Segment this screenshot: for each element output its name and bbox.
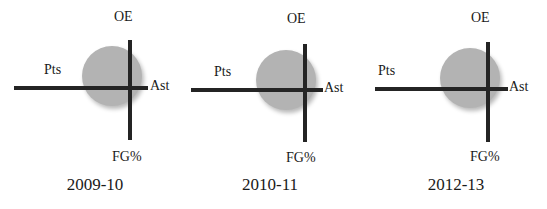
axis-arm-oe	[486, 42, 490, 89]
reference-circle	[440, 48, 500, 108]
reference-circle	[256, 50, 316, 110]
axis-label-fg: FG%	[112, 150, 142, 164]
panel-caption: 2009-10	[4, 176, 186, 193]
axis-label-oe: OE	[114, 10, 133, 24]
radar-glyph: OE Ast FG% Pts	[0, 0, 182, 160]
axis-arm-fg	[303, 90, 307, 142]
axis-label-ast: Ast	[324, 81, 343, 95]
panel-caption: 2010-11	[179, 176, 361, 193]
axis-label-fg: FG%	[470, 150, 500, 164]
axis-label-pts: Pts	[214, 65, 231, 79]
axis-arm-ast	[488, 87, 508, 91]
axis-label-pts: Pts	[378, 64, 395, 78]
reference-circle	[82, 46, 142, 106]
radar-panel-2012-13: OE Ast FG% Pts 2012-13	[365, 0, 547, 209]
axis-label-fg: FG%	[286, 151, 316, 165]
radar-panel-2009-10: OE Ast FG% Pts 2009-10	[0, 0, 182, 209]
axis-arm-pts	[375, 87, 488, 91]
radar-glyph-figure: OE Ast FG% Pts 2009-10 OE Ast FG% Pts 20…	[0, 0, 547, 209]
axis-arm-fg	[128, 88, 132, 140]
axis-label-oe: OE	[287, 12, 306, 26]
radar-glyph: OE Ast FG% Pts	[365, 0, 547, 160]
axis-label-oe: OE	[471, 11, 490, 25]
panel-caption: 2012-13	[365, 176, 547, 193]
axis-arm-pts	[14, 86, 130, 90]
radar-panel-2010-11: OE Ast FG% Pts 2010-11	[183, 0, 365, 209]
axis-arm-oe	[303, 44, 307, 90]
axis-label-ast: Ast	[509, 80, 528, 94]
axis-arm-pts	[191, 88, 305, 92]
axis-arm-ast	[305, 88, 323, 92]
radar-glyph: OE Ast FG% Pts	[183, 0, 365, 160]
axis-label-ast: Ast	[150, 79, 169, 93]
axis-arm-fg	[486, 89, 490, 142]
axis-arm-ast	[130, 86, 148, 90]
axis-arm-oe	[128, 40, 132, 88]
axis-label-pts: Pts	[44, 63, 61, 77]
